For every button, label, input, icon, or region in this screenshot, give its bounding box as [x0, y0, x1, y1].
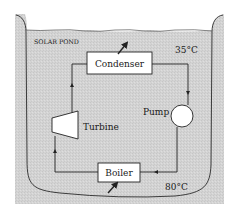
boiler-label: Boiler	[105, 168, 133, 178]
turbine-label: Turbine	[83, 122, 119, 132]
solar-pond-diagram: SOLAR POND 35°C Condenser Turbine Pump	[0, 0, 233, 216]
condenser-label: Condenser	[95, 59, 145, 69]
bottom-temperature: 80°C	[165, 182, 188, 192]
condenser: Condenser	[87, 52, 152, 74]
pump-label: Pump	[143, 107, 169, 117]
pond-label: SOLAR POND	[34, 38, 79, 45]
top-temperature: 35°C	[175, 45, 198, 55]
boiler: Boiler	[98, 163, 140, 182]
